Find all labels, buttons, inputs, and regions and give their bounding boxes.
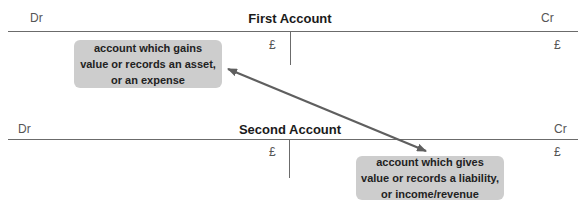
first-account-vertical-rule: [290, 32, 291, 65]
second-account-vertical-rule: [289, 140, 290, 178]
debit-callout-line-2: value or records an asset,: [74, 56, 222, 72]
second-account-credit-currency: £: [554, 145, 561, 159]
debit-callout-line-3: or an expense: [74, 72, 222, 88]
second-account-horizontal-rule: [8, 139, 578, 140]
credit-callout-line-1: account which gives: [356, 154, 504, 170]
first-account-credit-currency: £: [554, 38, 561, 52]
second-account-title: Second Account: [0, 122, 580, 137]
first-account-debit-currency: £: [269, 38, 276, 52]
credit-callout: account which gives value or records a l…: [356, 156, 504, 200]
cut-off-caption: [8, 205, 578, 215]
credit-callout-line-2: value or records a liability,: [356, 170, 504, 186]
credit-callout-line-3: or income/revenue: [356, 186, 504, 202]
first-account-title: First Account: [0, 11, 580, 26]
first-account-cr-label: Cr: [541, 11, 554, 25]
debit-callout-line-1: account which gains: [74, 40, 222, 56]
second-account-debit-currency: £: [269, 145, 276, 159]
first-account-horizontal-rule: [8, 31, 578, 32]
second-account-cr-label: Cr: [554, 122, 567, 136]
debit-callout: account which gains value or records an …: [74, 40, 222, 88]
